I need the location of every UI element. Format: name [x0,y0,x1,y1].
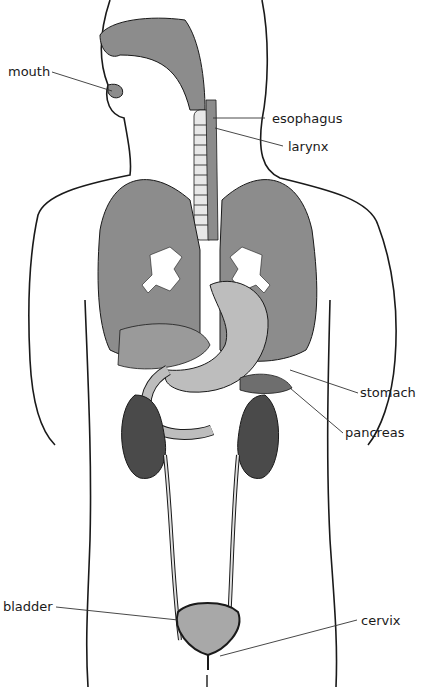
left-kidney [122,395,166,478]
label-pancreas: pancreas [345,426,404,439]
label-cervix: cervix [361,614,401,627]
bronchi [142,247,270,293]
pancreas-organ [240,374,292,393]
mouth-lips [108,84,123,98]
liver [118,324,210,369]
anatomy-diagram: mouth esophagus larynx stomach pancreas … [0,0,426,687]
label-mouth: mouth [8,65,50,78]
right-kidney [238,395,279,478]
anatomy-illustration [0,0,426,687]
esophagus-tube [206,100,218,240]
bladder-organ [177,603,240,655]
label-stomach: stomach [360,386,416,399]
label-larynx: larynx [288,140,329,153]
label-bladder: bladder [3,600,53,613]
label-esophagus: esophagus [272,112,342,125]
